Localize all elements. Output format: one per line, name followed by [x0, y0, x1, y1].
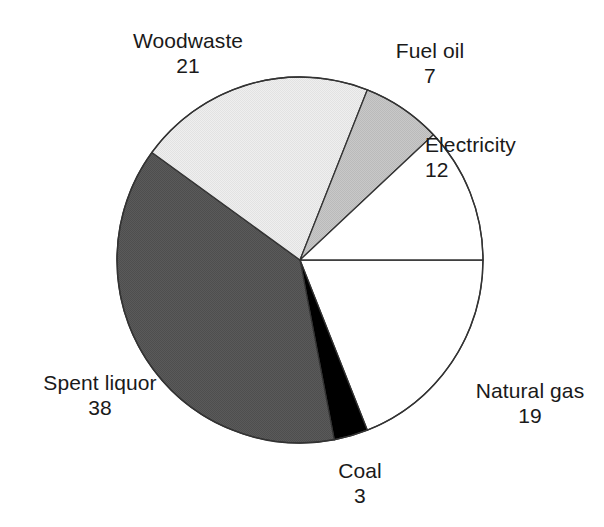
slice-label-fuel-oil-value: 7: [340, 63, 520, 88]
slice-label-coal-value: 3: [305, 483, 415, 508]
slice-label-electricity: Electricity 12: [425, 132, 604, 182]
slice-label-woodwaste-name: Woodwaste: [88, 28, 288, 53]
slice-label-fuel-oil-name: Fuel oil: [340, 38, 520, 63]
slice-label-electricity-name: Electricity: [425, 132, 604, 157]
slice-label-coal: Coal 3: [305, 458, 415, 508]
pie-chart-figure: Woodwaste 21 Fuel oil 7 Electricity 12 N…: [0, 0, 604, 527]
slice-label-woodwaste: Woodwaste 21: [88, 28, 288, 78]
slice-label-natural-gas-name: Natural gas: [455, 378, 604, 403]
slice-label-natural-gas: Natural gas 19: [455, 378, 604, 428]
slice-label-spent-liquor: Spent liquor 38: [10, 370, 190, 420]
slice-label-fuel-oil: Fuel oil 7: [340, 38, 520, 88]
slice-label-spent-liquor-value: 38: [10, 395, 190, 420]
slice-label-electricity-value: 12: [425, 157, 604, 182]
slice-label-spent-liquor-name: Spent liquor: [10, 370, 190, 395]
slice-label-coal-name: Coal: [305, 458, 415, 483]
slice-label-woodwaste-value: 21: [88, 53, 288, 78]
slice-label-natural-gas-value: 19: [455, 403, 604, 428]
